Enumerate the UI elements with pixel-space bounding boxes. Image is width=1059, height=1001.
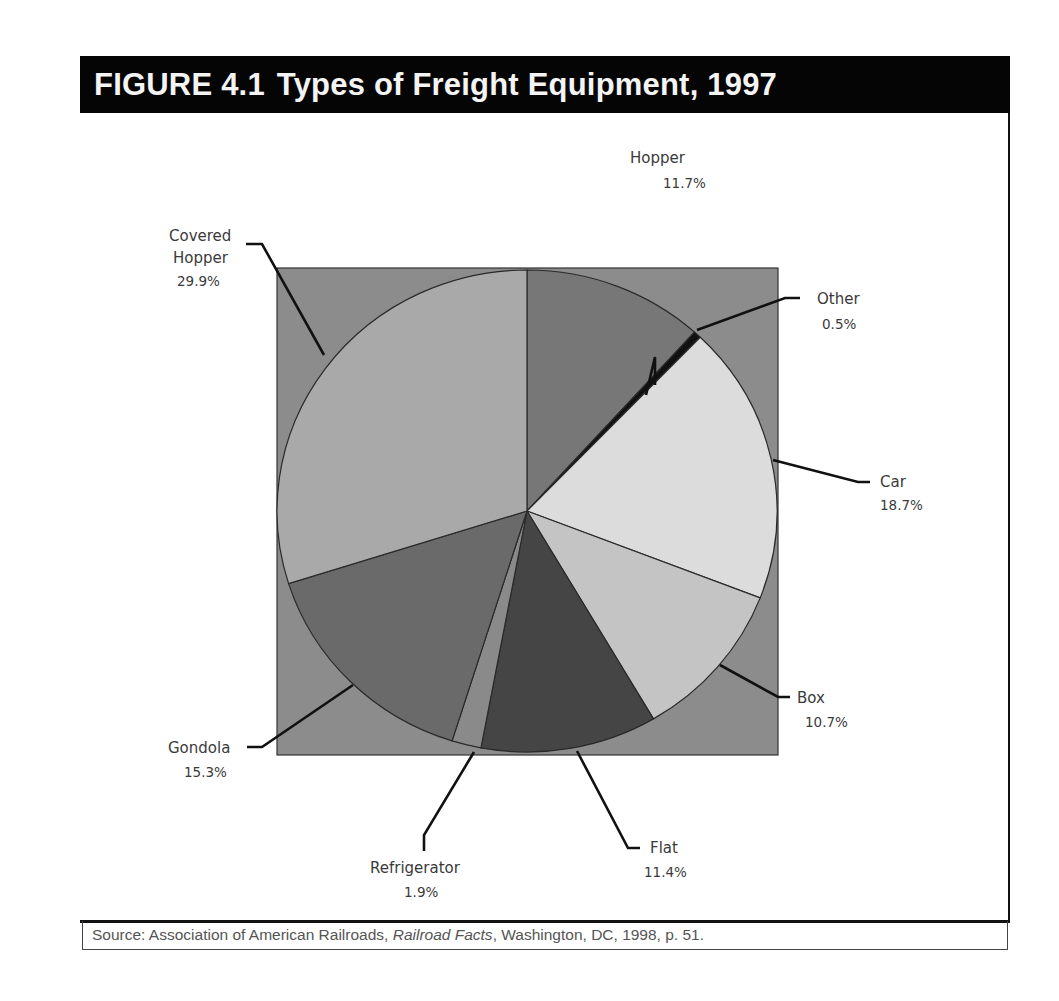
source-suffix: , Washington, DC, 1998, p. 51.: [493, 926, 704, 943]
label-flat: Flat: [650, 839, 678, 857]
label-covered-hopper-line1: Covered: [169, 227, 231, 245]
pie-chart: Hopper 11.7% Other 0.5% Car 18.7% Box 10…: [0, 0, 1059, 1001]
label-car: Car: [880, 473, 907, 491]
pct-gondola: 15.3%: [184, 764, 227, 780]
label-covered-hopper-line2: Hopper: [173, 249, 229, 267]
label-gondola: Gondola: [168, 739, 230, 757]
source-prefix: Source: Association of American Railroad…: [92, 926, 393, 943]
pie-slices: [277, 270, 777, 752]
pct-other: 0.5%: [822, 316, 856, 332]
pct-covered-hopper: 29.9%: [177, 273, 220, 289]
pct-car: 18.7%: [880, 497, 923, 513]
leader-line-flat: [577, 751, 640, 848]
label-hopper: Hopper: [630, 149, 686, 167]
label-refrigerator: Refrigerator: [370, 859, 461, 877]
pct-flat: 11.4%: [644, 864, 687, 880]
leader-line-refrigerator: [424, 752, 474, 851]
label-other: Other: [817, 290, 860, 308]
leader-line-car: [773, 460, 870, 482]
pct-hopper: 11.7%: [663, 175, 706, 191]
pct-refrigerator: 1.9%: [404, 884, 438, 900]
source-note: Source: Association of American Railroad…: [82, 921, 1008, 950]
label-box: Box: [797, 689, 825, 707]
source-publication: Railroad Facts: [393, 926, 493, 943]
pct-box: 10.7%: [805, 714, 848, 730]
